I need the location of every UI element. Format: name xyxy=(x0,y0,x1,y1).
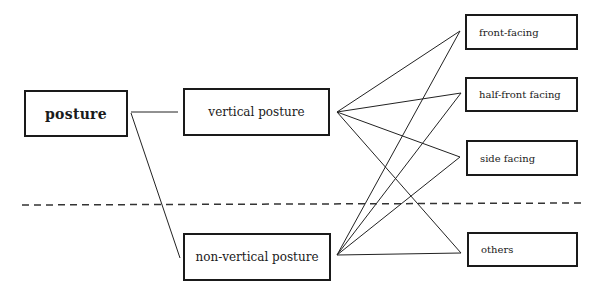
node-side-facing: side facing xyxy=(466,140,578,176)
edge-vertical-others xyxy=(337,112,461,253)
edge-posture-nonvertical xyxy=(131,113,180,258)
edge-nonvertical-front xyxy=(337,31,460,255)
node-posture: posture xyxy=(24,90,128,137)
node-half-front-facing-label: half-front facing xyxy=(479,89,561,100)
node-front-facing-label: front-facing xyxy=(479,27,539,38)
node-posture-label: posture xyxy=(45,106,107,122)
node-vertical-posture-label: vertical posture xyxy=(208,105,304,119)
edge-nonvertical-halffront xyxy=(337,93,461,255)
node-vertical-posture: vertical posture xyxy=(183,88,330,136)
edge-nonvertical-side xyxy=(337,157,460,255)
edge-vertical-halffront xyxy=(337,93,461,112)
node-front-facing: front-facing xyxy=(465,14,578,50)
edge-nonvertical-others xyxy=(337,253,461,255)
dashed-separator xyxy=(22,203,583,205)
node-non-vertical-posture-label: non-vertical posture xyxy=(196,250,319,264)
node-others: others xyxy=(467,232,578,267)
node-non-vertical-posture: non-vertical posture xyxy=(183,233,331,281)
node-side-facing-label: side facing xyxy=(480,153,535,164)
node-others-label: others xyxy=(481,244,513,255)
edge-vertical-front xyxy=(337,31,460,112)
node-half-front-facing: half-front facing xyxy=(465,77,578,112)
